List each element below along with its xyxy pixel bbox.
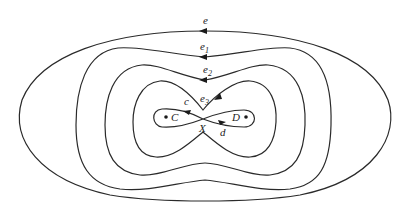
diagram-canvas: e e1 e2 e3 c d X C D [0,0,412,212]
diagram-figure: e e1 e2 e3 c d X C D [0,0,412,212]
curve-e2: e2 [105,63,305,175]
label-e2: e2 [203,63,212,78]
label-point-c: C [171,111,179,123]
point-d: D [231,111,248,123]
label-point-d: D [231,111,240,123]
label-c: c [184,95,189,107]
point-c: C [164,111,179,123]
label-e1: e1 [200,40,209,55]
label-d: d [220,126,226,138]
arrow-e2-icon [199,77,207,83]
label-e: e [203,14,208,26]
label-e3: e3 [200,92,209,107]
label-crossing-x: X [198,122,207,134]
arrow-e-icon [199,28,207,34]
